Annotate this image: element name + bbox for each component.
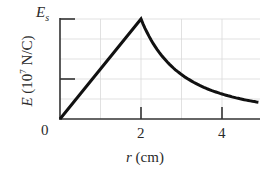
x-axis-label: r (cm) xyxy=(126,149,164,166)
es-subscript: s xyxy=(45,12,49,23)
x-tick-label-2: 2 xyxy=(137,125,145,142)
axes xyxy=(59,18,260,120)
xlabel-unit: (cm) xyxy=(136,149,164,165)
y-tick-label-es: Es xyxy=(36,4,49,23)
ylabel-var: E xyxy=(19,97,35,106)
ylabel-unit-prefix: (10 xyxy=(19,74,35,94)
x-tick-label-0: 0 xyxy=(41,122,49,139)
field-curve xyxy=(60,19,258,119)
xlabel-var: r xyxy=(126,149,132,165)
grid-lines xyxy=(60,19,260,119)
ylabel-unit-suffix: N/C) xyxy=(19,35,35,69)
ylabel-exp: 7 xyxy=(18,69,28,74)
es-text: E xyxy=(36,4,45,20)
y-axis-label: E (107 N/C) xyxy=(18,16,36,126)
x-tick-label-4: 4 xyxy=(218,125,226,142)
